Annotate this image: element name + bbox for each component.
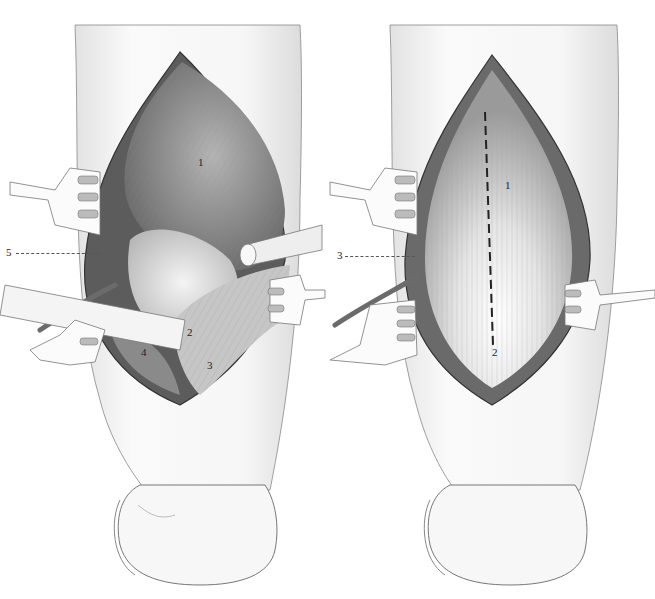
rake-retractor-right xyxy=(268,275,325,325)
forearm-dissection-left xyxy=(0,0,330,599)
label-right-1: 1 xyxy=(505,180,511,191)
forearm-dissection-right xyxy=(325,0,655,599)
label-left-4: 4 xyxy=(141,347,147,358)
label-5-leader-line xyxy=(16,253,100,254)
label-right-2: 2 xyxy=(492,347,498,358)
label-left-1: 1 xyxy=(198,157,204,168)
label-right-3: 3 xyxy=(337,250,343,261)
illustration-panel-right xyxy=(325,0,655,599)
label-left-2: 2 xyxy=(187,327,193,338)
label-left-5: 5 xyxy=(6,247,12,258)
label-3-leader-line xyxy=(345,256,415,257)
illustration-panel-left xyxy=(0,0,330,599)
label-left-3: 3 xyxy=(207,360,213,371)
rake-retractor-left-top xyxy=(10,168,100,235)
